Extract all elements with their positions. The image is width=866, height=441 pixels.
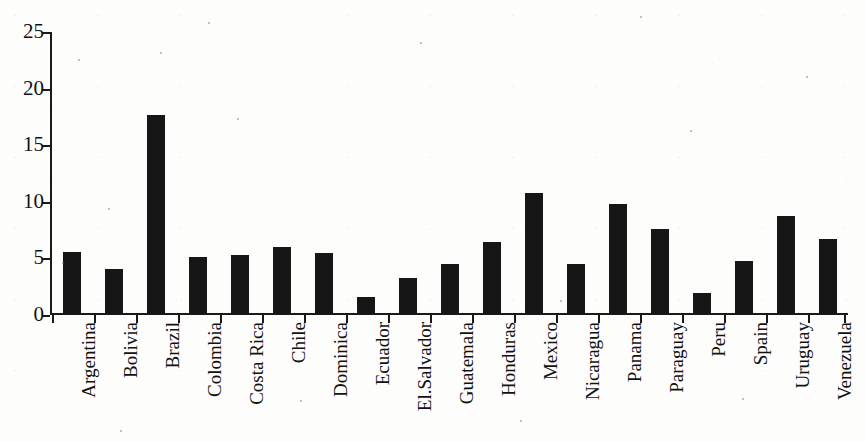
scan-speck <box>237 118 239 120</box>
bar <box>609 204 627 314</box>
x-axis-tick-label: Nicaragua <box>583 322 603 400</box>
y-axis-tick-label: 15 <box>23 133 44 155</box>
bar <box>483 242 501 314</box>
bar <box>525 193 543 314</box>
scan-speck <box>640 16 642 18</box>
y-axis-tick-label: 5 <box>34 246 45 268</box>
scan-speck <box>108 208 110 210</box>
x-axis-tick-label: Panama <box>625 322 645 382</box>
x-axis-tick-label: Costa Rica <box>247 322 267 405</box>
bar <box>63 252 81 314</box>
scan-speck <box>120 430 122 432</box>
bar <box>777 216 795 314</box>
bar <box>567 264 585 314</box>
x-axis-tick-label: Peru <box>709 322 729 357</box>
bar <box>189 257 207 314</box>
scan-speck <box>520 420 522 422</box>
scan-speck <box>208 22 210 24</box>
y-axis-tick-label: 25 <box>23 20 44 42</box>
scan-speck <box>62 262 64 264</box>
scan-speck <box>806 76 808 78</box>
x-axis-labels: ArgentinaBoliviaBrazilColombiaCosta Rica… <box>50 322 848 441</box>
scan-speck <box>420 42 422 44</box>
bar <box>399 278 417 314</box>
x-axis-tick-label: Argentina <box>79 322 99 398</box>
bar <box>315 253 333 314</box>
bar <box>693 293 711 315</box>
x-axis-tick-label: Dominica <box>331 322 351 397</box>
x-axis-tick-label: Brazil <box>163 322 183 368</box>
x-axis-tick-label: Guatemala <box>457 322 477 404</box>
y-axis-tick-label: 0 <box>34 303 45 325</box>
x-axis-tick-label: Mexico <box>541 322 561 380</box>
x-axis-tick-label: Chile <box>289 322 309 363</box>
scan-speck <box>160 52 162 54</box>
bar <box>231 255 249 314</box>
x-axis-tick-label: Ecuador <box>373 322 393 385</box>
bar-chart-figure: 2520151050 ArgentinaBoliviaBrazilColombi… <box>0 0 866 441</box>
bar <box>357 297 375 314</box>
bar <box>147 115 165 314</box>
x-axis-tick-label: Colombia <box>205 322 225 397</box>
scan-speck <box>78 59 80 61</box>
x-axis-tick-label: Honduras <box>499 322 519 396</box>
scan-speck <box>300 400 302 402</box>
y-axis-tick-label: 20 <box>23 77 44 99</box>
scan-speck <box>742 398 744 400</box>
y-axis-tick-label: 10 <box>23 190 44 212</box>
x-axis-tick-label: Spain <box>751 322 771 365</box>
bar <box>273 247 291 314</box>
plot-area: 2520151050 <box>50 32 848 314</box>
bar <box>105 269 123 314</box>
bar <box>441 264 459 314</box>
x-axis-tick-label: Bolivia <box>121 322 141 378</box>
x-axis-tick-label: Uruguay <box>793 322 813 388</box>
scan-speck <box>690 130 692 132</box>
bar <box>651 229 669 314</box>
x-axis-tick-label: Paraguay <box>667 322 687 393</box>
bar <box>735 261 753 314</box>
x-axis-tick-label: El.Salvador <box>415 322 435 411</box>
bar <box>819 239 837 314</box>
x-axis-tick-label: Venezuela <box>835 322 855 400</box>
scan-speck <box>560 300 562 302</box>
